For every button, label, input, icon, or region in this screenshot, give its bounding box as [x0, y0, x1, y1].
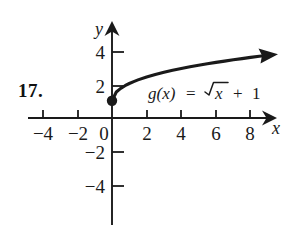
- y-tick-label-neg2: −2: [85, 142, 105, 163]
- x-tick-label-6: 6: [211, 123, 221, 144]
- y-axis-label: y: [93, 19, 103, 39]
- graph-figure: −4 −2 0 2 4 6 8 4 2 −2 −4 y x g(x) = x +…: [0, 0, 296, 235]
- y-axis-ticks: [112, 52, 124, 186]
- x-tick-label-2: 2: [142, 123, 152, 144]
- x-tick-label-neg2: −2: [68, 123, 88, 144]
- endpoint-dot: [107, 96, 117, 106]
- x-tick-label-8: 8: [245, 123, 255, 144]
- equation-constant: 1: [252, 84, 261, 103]
- y-tick-label-4: 4: [96, 42, 106, 63]
- y-tick-label-2: 2: [96, 76, 106, 97]
- function-equation-label: g(x) = x + 1: [148, 83, 261, 104]
- equation-radicand: x: [214, 84, 223, 103]
- equation-plus: +: [233, 84, 243, 103]
- y-tick-label-neg4: −4: [85, 176, 106, 197]
- equation-equals: =: [186, 84, 196, 103]
- x-axis-ticks: [43, 110, 250, 118]
- x-tick-label-neg4: −4: [33, 123, 54, 144]
- equation-lhs: g(x): [148, 84, 176, 103]
- x-tick-label-4: 4: [176, 123, 186, 144]
- x-axis-label: x: [271, 118, 280, 138]
- x-tick-label-0: 0: [99, 123, 109, 144]
